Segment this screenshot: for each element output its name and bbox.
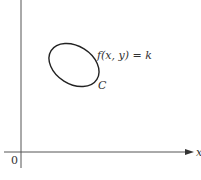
- x-axis-label: x: [196, 146, 201, 159]
- origin-label: 0: [11, 154, 18, 167]
- level-curve-diagram: f(x, y) = k C x 0: [0, 0, 201, 180]
- curve-equation-label: f(x, y) = k: [96, 49, 152, 62]
- x-axis-arrow-icon: [185, 149, 194, 155]
- curve-name-label: C: [98, 79, 107, 92]
